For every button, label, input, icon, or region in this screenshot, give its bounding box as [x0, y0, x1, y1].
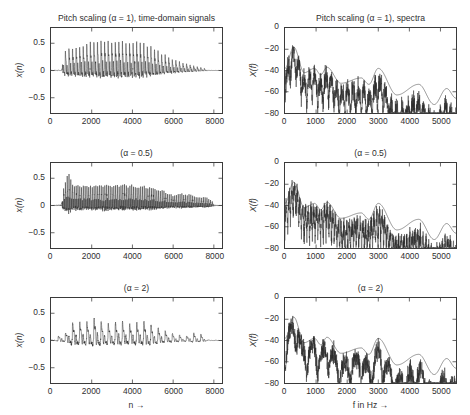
plot-area-spectra-alpha-2: [284, 297, 457, 384]
harmonic-spectrum-trace: [285, 316, 456, 383]
x-tick-label: 5000: [421, 386, 461, 396]
subplot-title: (α = 2): [284, 283, 457, 294]
y-tick-label: 0: [250, 291, 279, 301]
subplot-spectra-alpha-2: (α = 2)0−20−40−60−8001000200030004000500…: [0, 0, 470, 415]
y-axis-label: X(f): [248, 320, 258, 360]
figure-canvas: Pitch scaling (α = 1), time-domain signa…: [0, 0, 470, 415]
x-axis-label: f in Hz →: [284, 400, 457, 410]
